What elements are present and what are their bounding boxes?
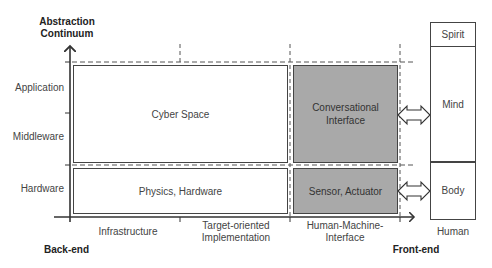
- human-label: Human: [424, 226, 482, 238]
- column-hmi: Human-Machine- Interface: [292, 220, 398, 244]
- body-box: Body: [430, 161, 476, 220]
- level-application: Application: [4, 82, 64, 94]
- column-infrastructure: Infrastructure: [80, 226, 176, 238]
- back-end-label: Back-end: [44, 244, 94, 256]
- level-hardware: Hardware: [4, 183, 64, 195]
- cyber-space-box: Cyber Space: [73, 65, 288, 163]
- mind-box: Mind: [430, 46, 476, 163]
- column-target-oriented: Target-oriented Implementation: [184, 220, 288, 244]
- body-double-arrow: [398, 182, 430, 200]
- physics-hardware-box: Physics, Hardware: [73, 168, 288, 214]
- sensor-actuator-box: Sensor, Actuator: [293, 168, 398, 214]
- mind-double-arrow: [398, 106, 430, 124]
- conversational-interface-box: Conversational Interface: [293, 65, 398, 163]
- spirit-box: Spirit: [430, 22, 476, 47]
- level-middleware: Middleware: [4, 131, 64, 143]
- y-axis-title: Abstraction Continuum: [22, 16, 112, 40]
- front-end-label: Front-end: [386, 244, 446, 256]
